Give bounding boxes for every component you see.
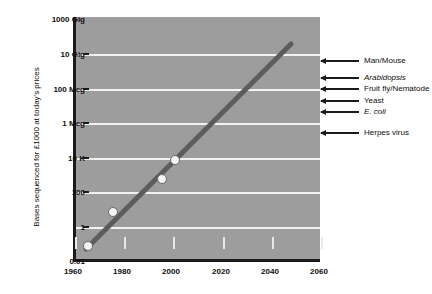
x-tick-label-1980: 1980 — [113, 267, 131, 276]
y-tick-label-100-meg: 100 Meg — [53, 85, 85, 94]
data-point[interactable] — [108, 207, 118, 217]
x-tick-label-2020: 2020 — [212, 267, 230, 276]
arrow-left-icon — [321, 132, 359, 134]
arrow-left-icon — [321, 111, 359, 113]
y-tick-mark-100-meg — [83, 88, 89, 90]
y-tick-mark-1-meg — [83, 122, 89, 124]
plot-area — [73, 17, 320, 262]
y-tick-mark-1 — [83, 226, 89, 228]
y-tick-label-1000-gig: 1000 Gig — [52, 15, 85, 24]
y-tick-mark-100 — [83, 191, 89, 193]
arrow-left-icon — [321, 100, 359, 102]
arrow-left-icon — [321, 60, 359, 62]
x-tick-label-2040: 2040 — [261, 267, 279, 276]
x-tick-mark-2000 — [173, 237, 175, 249]
annotation-label: Yeast — [364, 97, 384, 105]
annotation-label: E. coli — [364, 108, 386, 116]
y-tick-mark-10-gig — [83, 53, 89, 55]
sequencing-cost-chart: 1000 Gig 10 Gig 100 Meg 1 Meg 10 K 100 1… — [0, 0, 432, 294]
trend-line-segment — [86, 44, 291, 249]
annotation-label: Arabidopsis — [364, 74, 406, 82]
annotation-label: Herpes virus — [364, 129, 409, 137]
y-tick-label-0-01: 0.01 — [69, 257, 85, 266]
arrow-left-icon — [321, 77, 359, 79]
x-tick-label-1960: 1960 — [64, 267, 82, 276]
x-tick-mark-1980 — [124, 237, 126, 249]
y-tick-label-10-gig: 10 Gig — [61, 50, 85, 59]
x-tick-mark-2040 — [272, 237, 274, 249]
annotation-label: Fruit fly/Nematode — [364, 85, 429, 93]
x-tick-mark-2020 — [223, 237, 225, 249]
trend-line — [76, 17, 323, 262]
arrow-left-icon — [321, 88, 359, 90]
x-tick-mark-1960 — [75, 237, 77, 249]
data-point[interactable] — [170, 155, 180, 165]
y-tick-label-1-meg: 1 Meg — [62, 119, 85, 128]
x-tick-label-2060: 2060 — [310, 267, 328, 276]
data-point[interactable] — [157, 174, 167, 184]
x-tick-mark-2060 — [321, 237, 323, 249]
data-point[interactable] — [83, 241, 93, 251]
annotation-label: Man/Mouse — [364, 57, 406, 65]
x-tick-label-2000: 2000 — [162, 267, 180, 276]
y-tick-mark-10-k — [83, 157, 89, 159]
y-axis-title: Bases sequenced for £1000 at today's pri… — [32, 32, 41, 262]
